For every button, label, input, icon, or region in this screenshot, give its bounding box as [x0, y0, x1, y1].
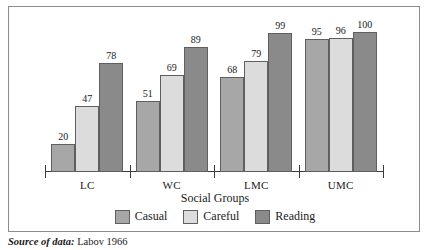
bar-value-label: 69	[167, 62, 177, 73]
bar-rect[interactable]	[244, 61, 268, 172]
bar-value-label: 47	[82, 93, 92, 104]
bar-value-label: 99	[275, 20, 285, 31]
bar-rect[interactable]	[305, 39, 329, 172]
chart-legend: CasualCarefulReading	[9, 209, 421, 224]
legend-swatch-careful	[183, 210, 198, 224]
x-tick-label-lmc: LMC	[214, 179, 299, 191]
bar-casual-wc[interactable]: 51	[136, 7, 160, 172]
figure-frame: 204778LC516989WC687999LMC9596100UMC Soci…	[8, 6, 420, 232]
bar-group-lc: 204778LC	[45, 7, 130, 172]
bar-group-umc: 9596100UMC	[299, 7, 384, 172]
bar-row: 9596100	[299, 7, 384, 172]
bar-value-label: 96	[336, 25, 346, 36]
bar-rect[interactable]	[136, 101, 160, 172]
bar-rect[interactable]	[184, 47, 208, 172]
bar-careful-wc[interactable]: 69	[160, 7, 184, 172]
bar-rect[interactable]	[99, 63, 123, 172]
legend-label: Casual	[135, 209, 168, 224]
bar-value-label: 79	[251, 48, 261, 59]
bar-rect[interactable]	[353, 32, 377, 172]
legend-label: Reading	[275, 209, 315, 224]
source-caption-reference: Labov 1966	[75, 236, 128, 247]
bar-groups-container: 204778LC516989WC687999LMC9596100UMC	[45, 7, 383, 172]
x-tick-label-umc: UMC	[299, 179, 384, 191]
x-axis-tick	[214, 165, 215, 178]
chart-plot-area: 204778LC516989WC687999LMC9596100UMC Soci…	[9, 7, 421, 233]
x-axis-tick	[45, 165, 46, 178]
bar-value-label: 89	[191, 34, 201, 45]
bar-group-lmc: 687999LMC	[214, 7, 299, 172]
x-tick-label-lc: LC	[45, 179, 130, 191]
source-caption: Source of data: Labov 1966	[8, 236, 128, 247]
bar-casual-lc[interactable]: 20	[51, 7, 75, 172]
bar-casual-lmc[interactable]: 68	[220, 7, 244, 172]
legend-item-reading[interactable]: Reading	[255, 209, 315, 224]
bar-value-label: 78	[106, 50, 116, 61]
bar-value-label: 95	[312, 26, 322, 37]
bar-casual-umc[interactable]: 95	[305, 7, 329, 172]
bar-row: 687999	[214, 7, 299, 172]
bar-rect[interactable]	[329, 38, 353, 172]
bar-rect[interactable]	[51, 144, 75, 172]
bar-rect[interactable]	[268, 33, 292, 172]
bar-careful-lmc[interactable]: 79	[244, 7, 268, 172]
x-tick-label-wc: WC	[130, 179, 215, 191]
bar-reading-lmc[interactable]: 99	[268, 7, 292, 172]
x-axis-title: Social Groups	[9, 191, 421, 206]
bar-reading-lc[interactable]: 78	[99, 7, 123, 172]
x-axis-tick	[299, 165, 300, 178]
legend-swatch-casual	[115, 210, 130, 224]
legend-item-careful[interactable]: Careful	[183, 209, 239, 224]
bar-rect[interactable]	[75, 106, 99, 172]
bar-rect[interactable]	[220, 77, 244, 172]
bar-rect[interactable]	[160, 75, 184, 172]
bar-value-label: 51	[143, 88, 153, 99]
bar-value-label: 20	[58, 131, 68, 142]
legend-item-casual[interactable]: Casual	[115, 209, 168, 224]
legend-label: Careful	[203, 209, 239, 224]
bar-group-wc: 516989WC	[130, 7, 215, 172]
bar-careful-lc[interactable]: 47	[75, 7, 99, 172]
bar-reading-wc[interactable]: 89	[184, 7, 208, 172]
bar-row: 516989	[130, 7, 215, 172]
source-caption-lead: Source of data:	[8, 236, 75, 247]
bar-careful-umc[interactable]: 96	[329, 7, 353, 172]
bar-reading-umc[interactable]: 100	[353, 7, 377, 172]
bar-value-label: 68	[227, 64, 237, 75]
bar-row: 204778	[45, 7, 130, 172]
x-axis-tick	[383, 165, 384, 178]
x-axis-tick	[130, 165, 131, 178]
legend-swatch-reading	[255, 210, 270, 224]
bar-value-label: 100	[357, 19, 372, 30]
